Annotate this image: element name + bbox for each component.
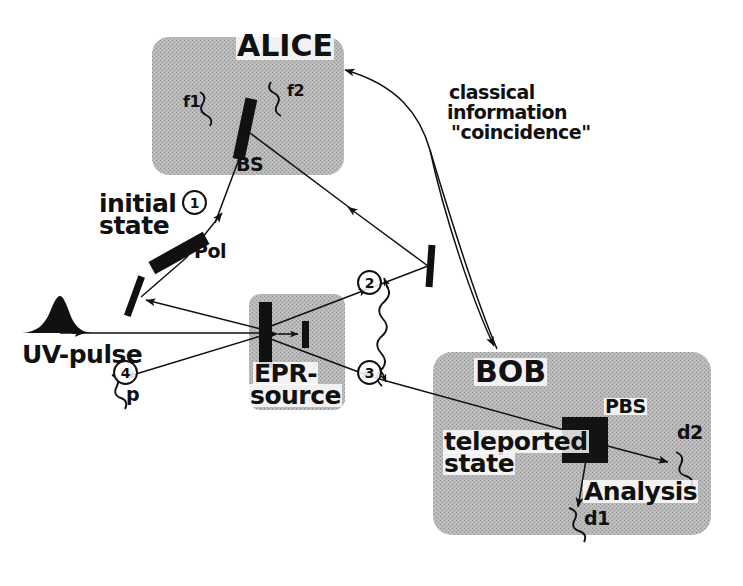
bob-label: BOB <box>474 358 547 386</box>
detector-d1-label: d1 <box>583 510 611 527</box>
photon-p-label: p <box>125 386 140 403</box>
photon-number-4: 4 <box>113 360 138 385</box>
beam-splitter-label: BS <box>235 156 264 173</box>
photon-number-2: 2 <box>357 270 382 295</box>
classical-info-label-line3: "coincidence" <box>450 124 592 141</box>
alice-label: ALICE <box>236 32 334 60</box>
uv-pulse-icon <box>22 296 92 333</box>
detector-f2-label: f2 <box>286 84 305 99</box>
polarizer-label: Pol <box>193 243 227 260</box>
teleported-state-label-line2: state <box>443 452 515 475</box>
photon-number-1: 1 <box>182 190 207 215</box>
analysis-label: Analysis <box>583 480 698 503</box>
detector-f1-label: f1 <box>182 95 201 110</box>
classical-info-label-line1: classical <box>448 84 536 101</box>
teleportation-figure: ALICE f1 f2 BS initial state Pol UV-puls… <box>0 0 743 586</box>
classical-info-label-line2: information <box>446 104 568 121</box>
detector-d2-label: d2 <box>676 424 704 441</box>
pbs-label: PBS <box>604 398 647 415</box>
photon-number-3: 3 <box>357 360 382 385</box>
epr-source-label-line2: source <box>249 384 342 407</box>
photon4-path <box>126 335 264 377</box>
steering-mirror-right[interactable] <box>426 245 436 287</box>
compensator-plate[interactable] <box>302 321 309 348</box>
initial-state-label-line2: state <box>98 214 170 237</box>
